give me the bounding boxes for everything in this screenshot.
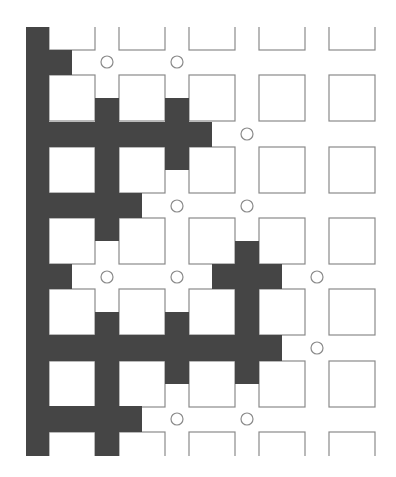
dark-path-segment bbox=[165, 98, 189, 122]
grid-square bbox=[259, 361, 305, 407]
dark-path-segment bbox=[49, 122, 212, 147]
grid-square bbox=[49, 75, 95, 121]
junction-circle-icon bbox=[311, 342, 323, 354]
dark-path-segment bbox=[49, 50, 72, 75]
dark-path-segment bbox=[165, 147, 189, 170]
dark-path-segment bbox=[235, 361, 259, 384]
grid-square bbox=[259, 147, 305, 193]
grid-square bbox=[49, 361, 95, 407]
junction-circle-icon bbox=[101, 271, 113, 283]
junction-circle-icon bbox=[311, 271, 323, 283]
dark-path-segment bbox=[95, 147, 119, 193]
grid-square bbox=[189, 218, 235, 264]
grid-square bbox=[189, 75, 235, 121]
percolation-grid-diagram bbox=[0, 0, 396, 477]
grid-square bbox=[259, 289, 305, 335]
dark-path-segment bbox=[49, 264, 72, 289]
grid-square bbox=[49, 289, 95, 335]
grid-square bbox=[259, 75, 305, 121]
dark-path-segment bbox=[95, 432, 119, 456]
dark-path-segment bbox=[95, 98, 119, 122]
dark-path-segment bbox=[95, 361, 119, 406]
junction-circle-icon bbox=[241, 128, 253, 140]
grid-square bbox=[329, 218, 375, 264]
junction-circle-icon bbox=[241, 200, 253, 212]
junction-circle-icon bbox=[101, 56, 113, 68]
grid-square bbox=[189, 289, 235, 335]
grid-square bbox=[329, 75, 375, 121]
grid-square bbox=[49, 147, 95, 193]
dark-path-segment bbox=[165, 312, 189, 335]
junction-circle-icon bbox=[171, 271, 183, 283]
grid-square bbox=[189, 361, 235, 407]
dark-path-segment bbox=[235, 241, 259, 264]
junction-circle-icon bbox=[171, 413, 183, 425]
grid-square bbox=[329, 361, 375, 407]
junction-circle-icon bbox=[241, 413, 253, 425]
grid-square bbox=[119, 361, 165, 407]
grid-square bbox=[189, 147, 235, 193]
dark-path-segment bbox=[235, 289, 259, 335]
top-clip-mask bbox=[0, 0, 396, 27]
dark-path-segment bbox=[95, 312, 119, 335]
grid-square bbox=[119, 75, 165, 121]
dark-path-segment bbox=[49, 335, 282, 361]
grid-square bbox=[119, 147, 165, 193]
dark-path-segment bbox=[49, 406, 142, 432]
dark-path-segment bbox=[212, 264, 282, 289]
grid-square bbox=[119, 289, 165, 335]
grid-square bbox=[329, 147, 375, 193]
grid-square bbox=[49, 218, 95, 264]
junction-circle-icon bbox=[171, 200, 183, 212]
dark-path-segment bbox=[49, 193, 142, 218]
bottom-clip-mask bbox=[0, 456, 396, 477]
dark-path-segment bbox=[95, 218, 119, 241]
grid-square bbox=[329, 289, 375, 335]
grid-square bbox=[119, 218, 165, 264]
dark-path-segment bbox=[26, 27, 49, 456]
grid-square bbox=[259, 218, 305, 264]
junction-circle-icon bbox=[171, 56, 183, 68]
dark-path-segment bbox=[165, 361, 189, 384]
